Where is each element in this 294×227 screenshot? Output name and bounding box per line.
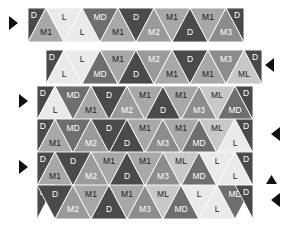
tile-label: M3 <box>220 27 232 37</box>
tile-label: M1 <box>139 156 151 166</box>
tile-label: D <box>160 105 166 115</box>
tile-label: M1 <box>175 123 187 133</box>
tiling-row: DM1LLMDM1DM2M1DM1M3D <box>28 8 244 42</box>
tile-label: D <box>124 171 130 181</box>
tile-label: M1 <box>112 27 124 37</box>
tile-label: M3 <box>139 204 151 214</box>
tile-label: ML <box>238 69 250 79</box>
tile-label: D <box>70 156 76 166</box>
tile-label: L <box>197 189 202 199</box>
tile-label: M1 <box>85 105 97 115</box>
tile-label: D <box>124 138 130 148</box>
svg-text:D: D <box>234 10 240 20</box>
svg-text:D: D <box>243 121 249 131</box>
tile-label: M1 <box>139 90 151 100</box>
right-triangle-icon <box>18 94 29 108</box>
svg-text:D: D <box>40 121 46 131</box>
tile-label: M1 <box>40 27 52 37</box>
tile-label: M1 <box>121 189 133 199</box>
tile-label: M1 <box>139 123 151 133</box>
right-triangle-icon <box>18 160 29 174</box>
tile-label: D <box>133 12 139 22</box>
tile-label: M2 <box>85 171 97 181</box>
tiling-row: DLMDM1DM2M1DM1M3MLMDD <box>37 86 253 120</box>
tile-label: D <box>187 27 193 37</box>
tile-label: M1 <box>112 54 124 64</box>
right-triangle-icon <box>8 16 19 30</box>
tile-label: M2 <box>85 138 97 148</box>
svg-text:D: D <box>243 88 249 98</box>
tile-label: MD <box>66 90 79 100</box>
tiling-row: DDM2M1DM1M3MLMDLLMDD <box>37 185 253 219</box>
tile-label: L <box>80 27 85 37</box>
up-triangle-icon <box>266 173 277 187</box>
svg-text:D: D <box>40 154 46 164</box>
tile-label: D <box>187 54 193 64</box>
tile-label: M2 <box>148 27 160 37</box>
tile-label: MD <box>174 204 187 214</box>
tile-label: L <box>215 204 220 214</box>
tile-label: M1 <box>202 12 214 22</box>
tile-label: M2 <box>148 54 160 64</box>
tile-label: MD <box>192 138 205 148</box>
left-triangle-icon <box>264 58 275 72</box>
tile-label: L <box>233 138 238 148</box>
tile-label: MD <box>192 171 205 181</box>
tile-label: D <box>106 123 112 133</box>
tile-label: L <box>80 54 85 64</box>
tile-label: M1 <box>166 12 178 22</box>
tile-label: M1 <box>49 138 61 148</box>
tile-label: M3 <box>157 138 169 148</box>
tile-label: L <box>62 69 67 79</box>
tile-label: M2 <box>67 204 79 214</box>
svg-text:D: D <box>40 88 46 98</box>
tile-label: MD <box>93 12 106 22</box>
tiling-row: DLLMDM1DM2M1DM1M3MLD <box>46 50 262 84</box>
tile-label: MD <box>93 69 106 79</box>
svg-text:D: D <box>49 52 55 62</box>
tile-label: L <box>53 105 58 115</box>
tile-label: L <box>62 12 67 22</box>
tile-label: D <box>133 69 139 79</box>
tile-label: M1 <box>85 189 97 199</box>
tile-label: ML <box>211 123 223 133</box>
tile-label: MD <box>66 123 79 133</box>
svg-text:D: D <box>243 187 249 197</box>
svg-text:D: D <box>31 10 37 20</box>
tile-label: M1 <box>175 90 187 100</box>
svg-text:D: D <box>252 52 258 62</box>
tile-label: M3 <box>157 171 169 181</box>
svg-text:D: D <box>243 154 249 164</box>
left-triangle-icon <box>270 193 281 207</box>
tile-label: M1 <box>202 69 214 79</box>
tile-label: D <box>52 189 58 199</box>
triangular-tiling-figure: DM1LLMDM1DM2M1DM1M3DDLLMDM1DM2M1DM1M3MLD… <box>0 0 294 227</box>
tile-label: ML <box>175 156 187 166</box>
tile-label: D <box>106 90 112 100</box>
tile-label: D <box>106 204 112 214</box>
tile-label: M3 <box>220 54 232 64</box>
tile-label: M3 <box>193 105 205 115</box>
tiling-row: DM1MDM2DDM1M3M1MDMLLD <box>37 119 253 153</box>
tiling-row: DM1DM2M1DM1M3MLMDLLD <box>37 152 253 186</box>
left-triangle-icon <box>270 127 281 141</box>
tile-label: M1 <box>49 171 61 181</box>
tile-label: MD <box>228 105 241 115</box>
tile-label: M1 <box>103 156 115 166</box>
tile-label: M2 <box>121 105 133 115</box>
tile-label: L <box>215 156 220 166</box>
tile-label: ML <box>157 189 169 199</box>
tile-label: ML <box>211 90 223 100</box>
tile-label: L <box>233 171 238 181</box>
tile-label: M1 <box>166 69 178 79</box>
